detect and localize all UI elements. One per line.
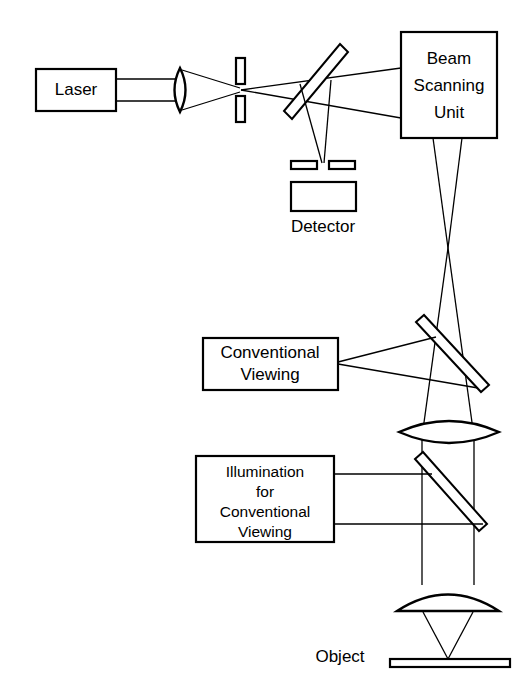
laser-focusing-lens xyxy=(175,68,186,112)
object-label: Object xyxy=(315,647,364,666)
conventional-viewing-label-line2: Viewing xyxy=(240,365,299,384)
illumination-label-line3: Conventional xyxy=(220,503,310,520)
illumination-conventional-viewing-group: Illumination for Conventional Viewing xyxy=(196,456,334,542)
conventional-viewing-label-line1: Conventional xyxy=(220,343,319,362)
laser-label: Laser xyxy=(55,80,98,99)
dichroic-beamsplitter xyxy=(284,44,348,119)
illumination-beamsplitter xyxy=(415,452,487,531)
beam-scanning-unit-label-line2: Scanning xyxy=(414,76,485,95)
optical-diagram-canvas: Laser xyxy=(0,0,532,694)
object-plane-bar xyxy=(390,659,510,667)
objective-focus-cone xyxy=(423,612,473,659)
tube-lens xyxy=(399,421,499,443)
viewing-beamsplitter-plate xyxy=(416,315,489,392)
detection-pinhole-left-blade xyxy=(291,161,317,169)
illumination-label-line2: for xyxy=(256,483,274,500)
illumination-beamsplitter-plate xyxy=(415,452,487,531)
beam-scanning-unit-group: Beam Scanning Unit xyxy=(401,32,497,138)
illumination-label-line4: Viewing xyxy=(238,523,292,540)
detector-label: Detector xyxy=(291,217,356,236)
detector-box xyxy=(291,182,356,211)
viewing-beamsplitter xyxy=(416,315,489,392)
optical-system-diagram: Laser xyxy=(0,0,532,694)
detector-group: Detector xyxy=(291,182,356,236)
laser-collimated-beam xyxy=(116,79,178,101)
object-plane-group: Object xyxy=(315,647,510,667)
detection-pinhole xyxy=(291,161,355,169)
excitation-pinhole-lower-blade xyxy=(236,96,245,122)
detection-pinhole-right-blade xyxy=(329,161,355,169)
excitation-pinhole-upper-blade xyxy=(236,58,245,84)
beam-scanning-unit-label-line1: Beam xyxy=(427,49,471,68)
scanning-unit-output-beam xyxy=(422,138,474,437)
illumination-label-line1: Illumination xyxy=(226,463,304,480)
dichroic-beamsplitter-plate xyxy=(284,44,348,119)
conventional-viewing-group: Conventional Viewing xyxy=(203,338,338,390)
excitation-converging-beam xyxy=(182,70,240,110)
objective-lens xyxy=(397,595,499,612)
laser-source-group: Laser xyxy=(36,69,116,111)
beam-scanning-unit-label-line3: Unit xyxy=(434,103,465,122)
